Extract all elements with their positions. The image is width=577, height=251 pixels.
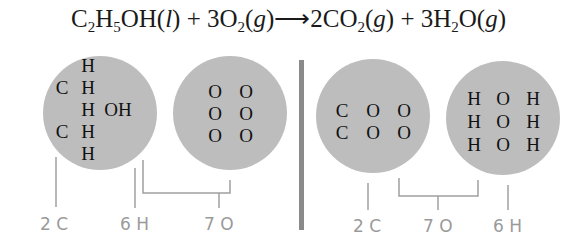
atom-diagram: HCHHOHCHHOOOOOOCOOCOOHOHHOHHOH 2 C 6 H 7… (0, 0, 577, 251)
ethanol-circle-atom: H (81, 121, 95, 142)
ethanol-circle (43, 56, 157, 170)
oxygen-circle-atom: O (208, 125, 222, 146)
ethanol-circle-atom: H (81, 143, 95, 164)
oxygen-circle (173, 56, 287, 170)
carbon-dioxide-circle-atom: O (397, 100, 411, 121)
water-circle-atom: H (467, 88, 481, 109)
carbon-dioxide-circle-atom: O (366, 122, 380, 143)
oxygen-circle-atom: O (208, 103, 222, 124)
divider-bar (299, 60, 304, 230)
water-circle-atom: H (526, 134, 540, 155)
label-7o-right: 7 O (423, 216, 453, 236)
ethanol-circle-atom: H (81, 55, 95, 76)
label-6h-left: 6 H (120, 214, 149, 234)
water-circle-atom: H (526, 88, 540, 109)
water-circle-atom: O (496, 88, 510, 109)
carbon-dioxide-circle-atom: C (336, 122, 349, 143)
label-2c-left: 2 C (40, 214, 68, 234)
oxygen-circle-atom: O (239, 103, 253, 124)
ethanol-circle-atom: H (81, 99, 95, 120)
carbon-dioxide-circle-atom: O (366, 100, 380, 121)
water-circle-atom: O (496, 111, 510, 132)
oxygen-circle-atom: O (239, 125, 253, 146)
carbon-dioxide-circle-atom: C (336, 100, 349, 121)
water-circle-atom: H (467, 134, 481, 155)
oxygen-circle-atom: O (208, 81, 222, 102)
ethanol-circle-atom: C (56, 121, 69, 142)
oxygen-circle-atom: O (239, 81, 253, 102)
water-circle-atom: H (526, 111, 540, 132)
oxygen-bracket-right (399, 178, 478, 196)
ethanol-circle-atom: H (81, 77, 95, 98)
ethanol-circle-atom: OH (104, 99, 132, 120)
water-circle-atom: O (496, 134, 510, 155)
carbon-dioxide-circle-atom: O (397, 122, 411, 143)
label-2c-right: 2 C (353, 216, 381, 236)
label-7o-left: 7 O (204, 214, 234, 234)
water-circle-atom: H (467, 111, 481, 132)
label-6h-right: 6 H (493, 216, 522, 236)
ethanol-circle-atom: C (56, 77, 69, 98)
